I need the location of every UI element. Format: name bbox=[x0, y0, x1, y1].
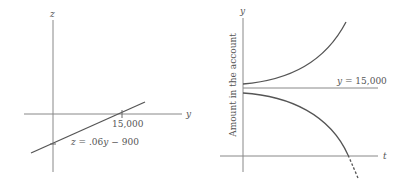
left-chart: z y 15,000 z = .06y − 900 bbox=[24, 9, 192, 172]
upper-curve bbox=[243, 22, 346, 84]
eq-rest: − 900 bbox=[108, 137, 139, 147]
tick-label-15000: 15,000 bbox=[112, 119, 144, 129]
lower-curve bbox=[243, 93, 348, 155]
right-chart: y t y = 15,000 Amount in the account bbox=[220, 6, 387, 178]
eq-mid: = .06 bbox=[76, 137, 104, 147]
equation-label: z = .06y − 900 bbox=[70, 137, 139, 147]
figure: z y 15,000 z = .06y − 900 y t y = 15,000… bbox=[0, 0, 405, 186]
equilibrium-label: y = 15,000 bbox=[336, 76, 387, 86]
eq-right-rest: = 15,000 bbox=[342, 76, 387, 86]
right-y-axis-label: y bbox=[239, 6, 246, 16]
right-t-axis-label: t bbox=[383, 151, 387, 161]
left-z-axis-label: z bbox=[49, 9, 55, 19]
left-y-axis-label: y bbox=[185, 109, 192, 119]
lower-curve-dashed bbox=[348, 155, 358, 178]
side-label: Amount in the account bbox=[228, 33, 238, 138]
